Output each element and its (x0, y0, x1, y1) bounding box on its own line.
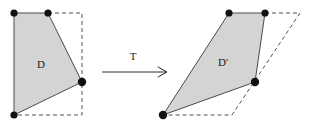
source-vertex-top-right (44, 9, 51, 16)
source-vertex-bottom-left (10, 111, 17, 118)
target-vertex-top-left (225, 9, 232, 16)
source-region-label: D (37, 58, 45, 70)
source-vertex-mid-right (78, 78, 86, 86)
target-vertex-top-right (261, 9, 268, 16)
target-vertex-mid-right (251, 78, 259, 86)
source-region-polygon (14, 13, 82, 115)
transformation-arrow-group: T (102, 50, 167, 77)
transformation-figure: D T D' (0, 0, 312, 128)
target-region-label: D' (218, 56, 228, 68)
target-vertex-bottom-left (159, 111, 167, 119)
target-region-polygon (163, 13, 265, 115)
figure-canvas: D T D' (0, 0, 312, 128)
transformation-label: T (130, 50, 137, 62)
source-region-group: D (10, 9, 86, 118)
target-region-group: D' (159, 9, 300, 119)
source-vertex-top-left (10, 9, 17, 16)
